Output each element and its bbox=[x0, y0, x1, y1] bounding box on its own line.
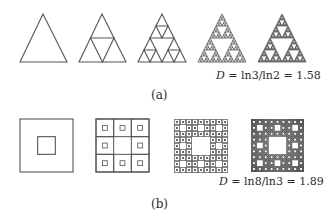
formula-expression: = ln3/ln2 = 1.58 bbox=[225, 69, 321, 82]
dimension-formula-b: D = ln8/ln3 = 1.89 bbox=[219, 175, 324, 188]
formula-variable: D bbox=[219, 175, 228, 188]
sierpinski-triangle-level-2 bbox=[138, 14, 186, 62]
formula-expression: = ln8/ln3 = 1.89 bbox=[228, 175, 324, 188]
sierpinski-carpet-level-3 bbox=[174, 119, 228, 173]
sierpinski-triangle-panel bbox=[20, 14, 306, 62]
dimension-formula-a: D = ln3/ln2 = 1.58 bbox=[216, 69, 321, 82]
sierpinski-carpet-level-2 bbox=[96, 119, 149, 172]
panel-caption-b: (b) bbox=[151, 197, 168, 211]
sierpinski-carpet-panel bbox=[20, 119, 304, 173]
sierpinski-triangle-level-1 bbox=[79, 14, 126, 62]
sierpinski-triangle-level-5 bbox=[258, 14, 306, 62]
panel-caption-a: (a) bbox=[151, 88, 168, 102]
sierpinski-triangle-level-0 bbox=[20, 14, 67, 62]
sierpinski-carpet-level-4 bbox=[251, 119, 304, 172]
sierpinski-triangle-level-4 bbox=[198, 14, 246, 62]
formula-variable: D bbox=[216, 69, 225, 82]
sierpinski-carpet-level-1 bbox=[20, 119, 73, 172]
